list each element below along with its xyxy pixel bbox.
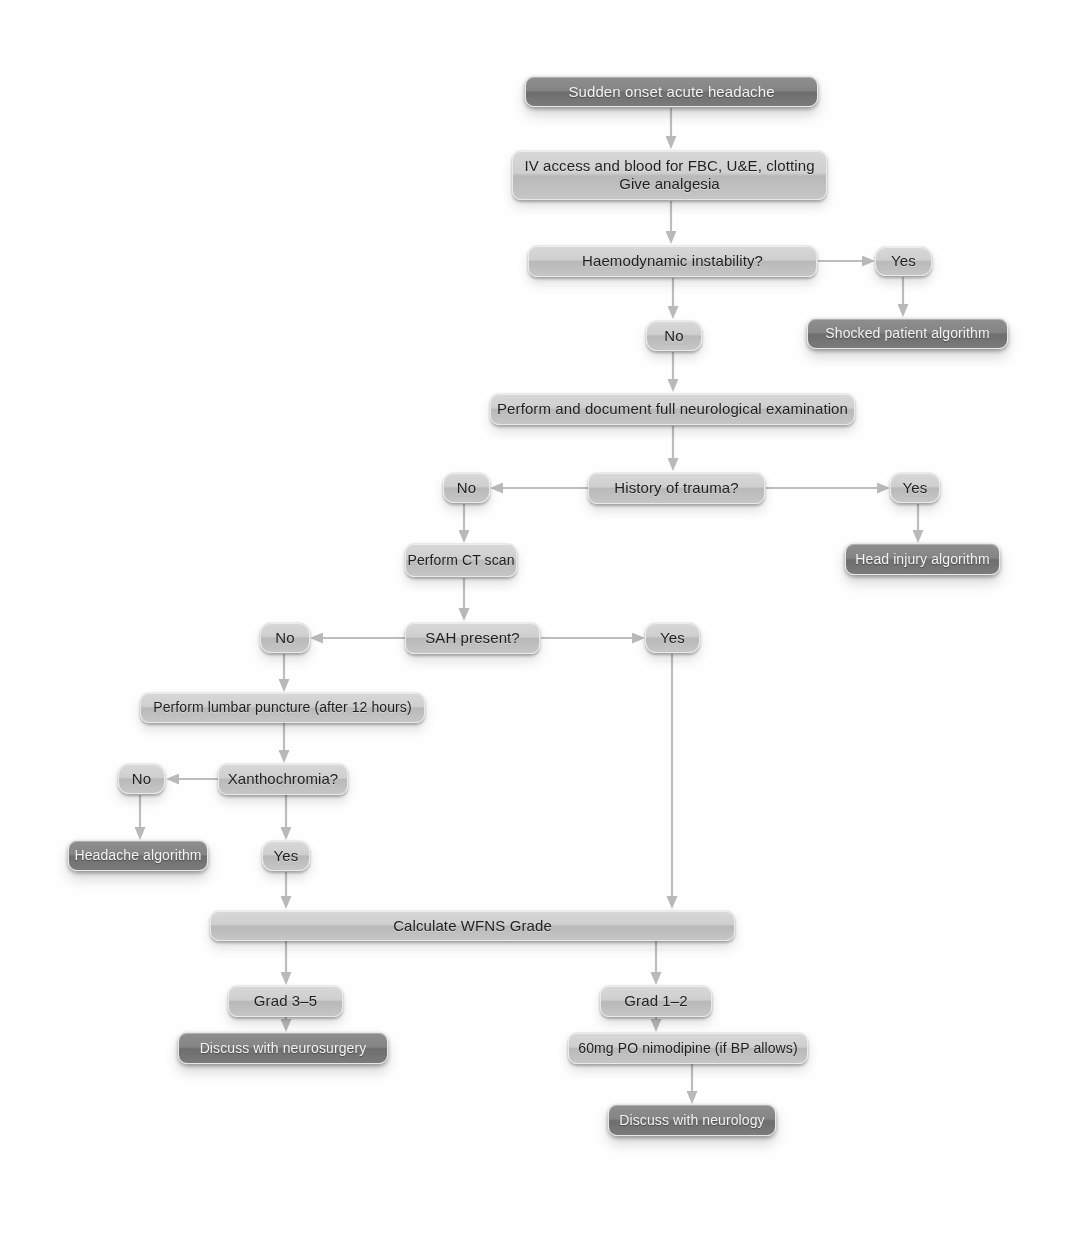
node-perform-ct-scan[interactable]: Perform CT scan — [405, 543, 517, 577]
node-trauma-no[interactable]: No — [443, 472, 490, 503]
node-nimodipine[interactable]: 60mg PO nimodipine (if BP allows) — [568, 1032, 808, 1064]
node-xanthochromia[interactable]: Xanthochromia? — [218, 763, 348, 795]
node-xanthochromia-no[interactable]: No — [118, 763, 165, 794]
node-history-of-trauma[interactable]: History of trauma? — [588, 472, 765, 504]
node-grade-1-2[interactable]: Grad 1–2 — [600, 985, 712, 1017]
node-neurological-examination[interactable]: Perform and document full neurological e… — [490, 393, 855, 425]
node-headache-algorithm[interactable]: Headache algorithm — [68, 840, 208, 871]
node-haemodynamic-no[interactable]: No — [646, 320, 702, 351]
node-iv-access[interactable]: IV access and blood for FBC, U&E, clotti… — [512, 150, 827, 200]
node-start[interactable]: Sudden onset acute headache — [525, 76, 818, 107]
node-xanthochromia-yes[interactable]: Yes — [262, 840, 310, 871]
node-haemodynamic-instability[interactable]: Haemodynamic instability? — [528, 245, 817, 277]
node-head-injury-algorithm[interactable]: Head injury algorithm — [845, 543, 1000, 575]
node-discuss-with-neurosurgery[interactable]: Discuss with neurosurgery — [178, 1032, 388, 1064]
flowchart-canvas: Sudden onset acute headache IV access an… — [0, 0, 1070, 1235]
node-sah-no[interactable]: No — [260, 622, 310, 653]
node-haemodynamic-yes[interactable]: Yes — [875, 246, 932, 276]
node-sah-yes[interactable]: Yes — [645, 622, 700, 653]
node-lumbar-puncture[interactable]: Perform lumbar puncture (after 12 hours) — [140, 692, 425, 723]
node-grade-3-5[interactable]: Grad 3–5 — [228, 985, 343, 1017]
node-shocked-patient-algorithm[interactable]: Shocked patient algorithm — [807, 318, 1008, 349]
node-sah-present[interactable]: SAH present? — [405, 622, 540, 654]
node-discuss-with-neurology[interactable]: Discuss with neurology — [608, 1104, 776, 1136]
node-trauma-yes[interactable]: Yes — [890, 472, 940, 503]
node-calculate-wfns-grade[interactable]: Calculate WFNS Grade — [210, 910, 735, 941]
